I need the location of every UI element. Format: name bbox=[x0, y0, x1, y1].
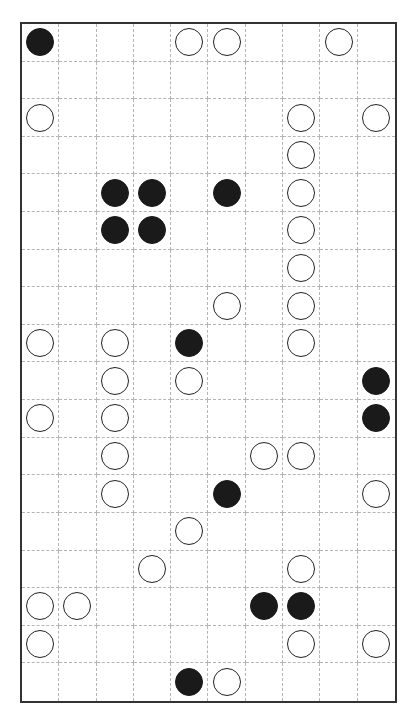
grid-cell[interactable] bbox=[134, 362, 171, 400]
grid-cell[interactable] bbox=[283, 250, 320, 288]
grid-cell[interactable] bbox=[358, 551, 395, 589]
grid-cell[interactable] bbox=[208, 513, 245, 551]
grid-cell[interactable] bbox=[59, 212, 96, 250]
grid-cell[interactable] bbox=[208, 24, 245, 62]
grid-cell[interactable] bbox=[246, 325, 283, 363]
grid-cell[interactable] bbox=[134, 287, 171, 325]
grid-cell[interactable] bbox=[246, 99, 283, 137]
grid-cell[interactable] bbox=[171, 362, 208, 400]
grid-cell[interactable] bbox=[97, 62, 134, 100]
grid-cell[interactable] bbox=[246, 362, 283, 400]
grid-cell[interactable] bbox=[22, 174, 59, 212]
grid-cell[interactable] bbox=[59, 551, 96, 589]
grid-cell[interactable] bbox=[320, 663, 357, 701]
grid-cell[interactable] bbox=[358, 663, 395, 701]
grid-cell[interactable] bbox=[208, 137, 245, 175]
grid-cell[interactable] bbox=[59, 663, 96, 701]
grid-cell[interactable] bbox=[283, 287, 320, 325]
grid-cell[interactable] bbox=[171, 24, 208, 62]
grid-cell[interactable] bbox=[22, 24, 59, 62]
grid-cell[interactable] bbox=[171, 663, 208, 701]
grid-cell[interactable] bbox=[59, 137, 96, 175]
grid-cell[interactable] bbox=[246, 626, 283, 664]
grid-cell[interactable] bbox=[171, 325, 208, 363]
grid-cell[interactable] bbox=[208, 551, 245, 589]
grid-cell[interactable] bbox=[246, 62, 283, 100]
grid-cell[interactable] bbox=[97, 287, 134, 325]
grid-cell[interactable] bbox=[97, 325, 134, 363]
grid-cell[interactable] bbox=[134, 475, 171, 513]
grid-cell[interactable] bbox=[320, 513, 357, 551]
grid-cell[interactable] bbox=[358, 475, 395, 513]
grid-cell[interactable] bbox=[97, 400, 134, 438]
grid-cell[interactable] bbox=[59, 400, 96, 438]
grid-cell[interactable] bbox=[171, 475, 208, 513]
grid-cell[interactable] bbox=[97, 137, 134, 175]
grid-cell[interactable] bbox=[283, 24, 320, 62]
grid-cell[interactable] bbox=[59, 287, 96, 325]
grid-cell[interactable] bbox=[358, 588, 395, 626]
grid-cell[interactable] bbox=[283, 62, 320, 100]
grid-cell[interactable] bbox=[283, 513, 320, 551]
grid-cell[interactable] bbox=[283, 400, 320, 438]
grid-cell[interactable] bbox=[134, 137, 171, 175]
grid-cell[interactable] bbox=[97, 362, 134, 400]
grid-cell[interactable] bbox=[134, 212, 171, 250]
grid-cell[interactable] bbox=[246, 588, 283, 626]
grid-cell[interactable] bbox=[246, 287, 283, 325]
grid-cell[interactable] bbox=[358, 137, 395, 175]
grid-cell[interactable] bbox=[320, 287, 357, 325]
grid-cell[interactable] bbox=[97, 24, 134, 62]
grid-cell[interactable] bbox=[320, 551, 357, 589]
grid-cell[interactable] bbox=[320, 250, 357, 288]
grid-cell[interactable] bbox=[134, 626, 171, 664]
grid-cell[interactable] bbox=[246, 250, 283, 288]
grid-cell[interactable] bbox=[171, 551, 208, 589]
grid-cell[interactable] bbox=[246, 400, 283, 438]
grid-cell[interactable] bbox=[59, 24, 96, 62]
grid-cell[interactable] bbox=[208, 212, 245, 250]
grid-cell[interactable] bbox=[320, 362, 357, 400]
grid-cell[interactable] bbox=[59, 475, 96, 513]
grid-cell[interactable] bbox=[320, 325, 357, 363]
grid-cell[interactable] bbox=[358, 438, 395, 476]
grid-cell[interactable] bbox=[59, 174, 96, 212]
grid-cell[interactable] bbox=[320, 438, 357, 476]
grid-cell[interactable] bbox=[22, 513, 59, 551]
grid-cell[interactable] bbox=[134, 62, 171, 100]
grid-cell[interactable] bbox=[171, 174, 208, 212]
grid-cell[interactable] bbox=[283, 438, 320, 476]
grid-cell[interactable] bbox=[358, 174, 395, 212]
grid-cell[interactable] bbox=[283, 588, 320, 626]
grid-cell[interactable] bbox=[171, 212, 208, 250]
grid-cell[interactable] bbox=[134, 588, 171, 626]
grid-cell[interactable] bbox=[283, 551, 320, 589]
grid-cell[interactable] bbox=[246, 513, 283, 551]
grid-cell[interactable] bbox=[358, 400, 395, 438]
grid-cell[interactable] bbox=[22, 475, 59, 513]
grid-cell[interactable] bbox=[134, 663, 171, 701]
grid-cell[interactable] bbox=[97, 513, 134, 551]
grid-cell[interactable] bbox=[59, 362, 96, 400]
grid-cell[interactable] bbox=[246, 24, 283, 62]
grid-cell[interactable] bbox=[97, 551, 134, 589]
grid-cell[interactable] bbox=[246, 475, 283, 513]
grid-cell[interactable] bbox=[320, 174, 357, 212]
grid-cell[interactable] bbox=[320, 212, 357, 250]
grid-cell[interactable] bbox=[134, 400, 171, 438]
grid-cell[interactable] bbox=[246, 137, 283, 175]
grid-cell[interactable] bbox=[59, 438, 96, 476]
grid-cell[interactable] bbox=[134, 325, 171, 363]
grid-cell[interactable] bbox=[358, 250, 395, 288]
grid-cell[interactable] bbox=[22, 62, 59, 100]
grid-cell[interactable] bbox=[208, 62, 245, 100]
grid-cell[interactable] bbox=[283, 212, 320, 250]
grid-cell[interactable] bbox=[22, 400, 59, 438]
grid-cell[interactable] bbox=[22, 287, 59, 325]
grid-cell[interactable] bbox=[59, 513, 96, 551]
grid-cell[interactable] bbox=[320, 475, 357, 513]
grid-cell[interactable] bbox=[171, 99, 208, 137]
grid-cell[interactable] bbox=[97, 626, 134, 664]
grid-cell[interactable] bbox=[358, 362, 395, 400]
grid-cell[interactable] bbox=[171, 513, 208, 551]
